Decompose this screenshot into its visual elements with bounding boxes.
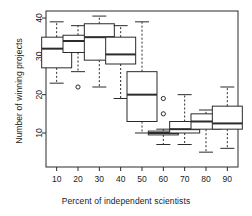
plot-area: 10203040102030405060708090 xyxy=(0,0,252,216)
outlier-point xyxy=(161,112,165,116)
y-axis-title: Number of winning projects xyxy=(14,26,24,156)
y-tick-label: 40 xyxy=(34,13,44,23)
x-axis-title: Percent of independent scientists xyxy=(0,196,252,206)
x-tick-label: 90 xyxy=(223,174,233,184)
x-tick-label: 70 xyxy=(180,174,190,184)
x-tick-label: 10 xyxy=(52,174,62,184)
outlier-point xyxy=(161,96,165,100)
x-tick-label: 30 xyxy=(95,174,105,184)
box-iqr xyxy=(106,37,136,64)
box-iqr xyxy=(127,72,157,122)
x-tick-label: 80 xyxy=(201,174,211,184)
x-tick-label: 20 xyxy=(73,174,83,184)
y-tick-label: 10 xyxy=(34,128,44,138)
box-iqr xyxy=(212,106,242,129)
x-tick-label: 50 xyxy=(137,174,147,184)
x-tick-label: 40 xyxy=(116,174,126,184)
x-tick-label: 60 xyxy=(159,174,169,184)
y-tick-label: 20 xyxy=(34,90,44,100)
boxplot-figure: 10203040102030405060708090 Number of win… xyxy=(0,0,252,216)
outlier-point xyxy=(76,85,80,89)
